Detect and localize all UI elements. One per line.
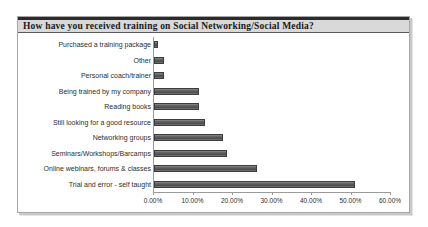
x-axis-tick-label: 60.00% bbox=[379, 197, 401, 204]
bar-track bbox=[154, 37, 158, 53]
category-label: Reading books bbox=[104, 103, 151, 110]
bar-row: Other bbox=[18, 53, 409, 69]
bar-track bbox=[154, 53, 164, 69]
category-label: Online webinars, forums & classes bbox=[44, 165, 151, 172]
x-axis-tick bbox=[311, 192, 312, 195]
bar-row: Being trained by my company bbox=[18, 84, 409, 100]
chart-screenshot: How have you received training on Social… bbox=[0, 0, 428, 227]
bar bbox=[154, 134, 223, 141]
x-axis: 0.00%10.00%20.00%30.00%40.00%50.00%60.00… bbox=[18, 192, 409, 222]
x-axis-tick bbox=[351, 192, 352, 195]
bar bbox=[154, 88, 199, 95]
category-label: Personal coach/trainer bbox=[81, 72, 151, 79]
bar-track bbox=[154, 146, 227, 162]
bar bbox=[154, 165, 257, 172]
category-label: Networking groups bbox=[93, 134, 151, 141]
category-label: Other bbox=[133, 57, 151, 64]
bar bbox=[154, 57, 164, 64]
bar-row: Networking groups bbox=[18, 130, 409, 146]
x-axis-tick-label: 40.00% bbox=[300, 197, 322, 204]
chart-title-bar: How have you received training on Social… bbox=[18, 17, 409, 33]
bar-track bbox=[154, 99, 199, 115]
x-axis-tick-label: 20.00% bbox=[221, 197, 243, 204]
bar-track bbox=[154, 177, 355, 193]
bar-row: Still looking for a good resource bbox=[18, 115, 409, 131]
bar bbox=[154, 150, 227, 157]
bar-row: Seminars/Workshops/Barcamps bbox=[18, 146, 409, 162]
x-axis-tick bbox=[232, 192, 233, 195]
category-label: Still looking for a good resource bbox=[53, 119, 151, 126]
x-axis-tick-label: 0.00% bbox=[144, 197, 162, 204]
bar-row: Online webinars, forums & classes bbox=[18, 161, 409, 177]
bar bbox=[154, 119, 205, 126]
bar bbox=[154, 181, 355, 188]
bar bbox=[154, 103, 199, 110]
chart-title: How have you received training on Social… bbox=[18, 19, 314, 31]
x-axis-tick-label: 30.00% bbox=[260, 197, 282, 204]
bar-track bbox=[154, 84, 199, 100]
bar-row: Reading books bbox=[18, 99, 409, 115]
category-label: Seminars/Workshops/Barcamps bbox=[51, 150, 151, 157]
bar-track bbox=[154, 161, 257, 177]
x-axis-tick-label: 10.00% bbox=[181, 197, 203, 204]
x-axis-tick-label: 50.00% bbox=[339, 197, 361, 204]
bar-rows: Purchased a training packageOtherPersona… bbox=[18, 37, 409, 192]
chart-frame: How have you received training on Social… bbox=[17, 16, 410, 213]
x-axis-tick bbox=[390, 192, 391, 195]
category-label: Purchased a training package bbox=[58, 41, 151, 48]
category-label: Being trained by my company bbox=[59, 88, 151, 95]
bar-row: Purchased a training package bbox=[18, 37, 409, 53]
x-axis-tick bbox=[193, 192, 194, 195]
bar bbox=[154, 41, 158, 48]
x-axis-tick bbox=[272, 192, 273, 195]
bar-row: Trial and error - self taught bbox=[18, 177, 409, 193]
plot-area: Purchased a training packageOtherPersona… bbox=[18, 33, 409, 212]
bar-track bbox=[154, 115, 205, 131]
bar-row: Personal coach/trainer bbox=[18, 68, 409, 84]
bar bbox=[154, 72, 164, 79]
category-label: Trial and error - self taught bbox=[69, 181, 151, 188]
bar-track bbox=[154, 68, 164, 84]
x-axis-tick bbox=[153, 192, 154, 195]
bar-track bbox=[154, 130, 223, 146]
